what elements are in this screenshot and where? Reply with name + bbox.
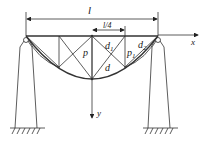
span-label: l: [88, 5, 91, 16]
quarter-span-label: l/4: [103, 22, 111, 30]
diag-d-label: d: [105, 63, 110, 73]
post-p-label: p: [83, 48, 88, 58]
diag-d2-label: d2: [138, 40, 147, 52]
right-tower: [143, 38, 178, 135]
diag-d1-label: d1: [105, 41, 114, 53]
x-axis-label: x: [191, 38, 195, 47]
truss-diagram: l l/4 x y p p1 d1 d d2: [0, 0, 208, 142]
y-axis-label: y: [97, 109, 101, 118]
span-dimension: [26, 12, 158, 36]
post-p1-label: p1: [127, 48, 136, 60]
